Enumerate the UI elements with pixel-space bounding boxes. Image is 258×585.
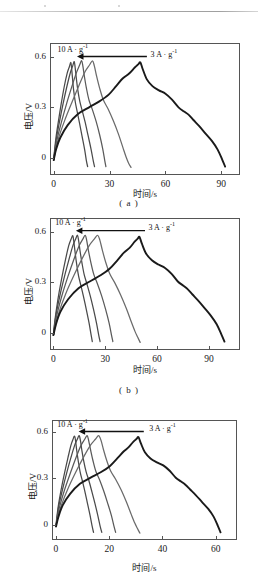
y-tick-mark (52, 478, 56, 479)
gcd-curve (54, 61, 106, 167)
panel-caption-b: ( b ) (0, 385, 258, 395)
gcd-curve (53, 235, 140, 342)
x-tick-label: 0 (41, 544, 71, 554)
scan-speck-right (118, 5, 120, 7)
high-rate-label: 10 A · g-1 (57, 418, 88, 429)
x-tick-label: 40 (147, 544, 177, 554)
scan-speck-left (44, 5, 46, 7)
x-tick-label: 0 (39, 179, 69, 189)
gcd-curve (53, 235, 100, 341)
y-axis-label: 电压/V (22, 278, 35, 305)
x-tick-mark (109, 536, 110, 540)
gcd-curve (54, 62, 95, 167)
y-tick-label: 0.3 (22, 101, 46, 111)
gcd-curve (56, 437, 221, 532)
chart-panel-a: 00.30.60306090时间/s电压/V10 A · g-13 A · g-… (0, 0, 258, 585)
x-tick-mark (209, 346, 210, 350)
y-tick-mark (50, 282, 54, 283)
curve-layer (0, 0, 258, 585)
x-tick-mark (54, 171, 55, 175)
gcd-curve (53, 236, 92, 342)
x-tick-label: 90 (206, 179, 236, 189)
gcd-curve (54, 62, 225, 166)
x-tick-label: 60 (150, 179, 180, 189)
curve-layer (0, 0, 258, 585)
gcd-curve (54, 61, 131, 168)
high-rate-label: 10 A · g-1 (55, 216, 86, 227)
x-tick-label: 20 (94, 544, 124, 554)
gcd-curve (56, 436, 116, 533)
low-rate-label: 3 A · g-1 (148, 221, 175, 232)
y-tick-mark (50, 333, 54, 334)
y-tick-label: 0.6 (22, 226, 46, 236)
y-tick-mark (52, 525, 56, 526)
chart-panel-b: 00.30.60306090时间/s电压/V10 A · g-13 A · g-… (0, 0, 258, 585)
x-tick-label: 60 (201, 544, 231, 554)
x-tick-label: 60 (142, 354, 172, 364)
x-axis-label: 时间/s (50, 363, 240, 376)
y-tick-label: 0 (22, 327, 46, 337)
gcd-curve (54, 62, 88, 166)
y-tick-mark (50, 158, 54, 159)
gcd-curve (53, 235, 112, 341)
y-axis-label: 电压/V (26, 473, 39, 500)
y-axis-label: 电压/V (22, 103, 35, 130)
y-tick-mark (50, 232, 54, 233)
y-tick-label: 0.6 (24, 426, 48, 436)
y-tick-label: 0.3 (22, 276, 46, 286)
x-tick-label: 0 (38, 354, 68, 364)
y-tick-label: 0 (24, 519, 48, 529)
x-tick-mark (221, 171, 222, 175)
x-tick-mark (53, 346, 54, 350)
x-tick-mark (105, 346, 106, 350)
plot-frame (52, 420, 237, 540)
plot-frame (50, 43, 240, 175)
low-rate-label: 3 A · g-1 (151, 48, 178, 59)
y-tick-label: 0 (22, 152, 46, 162)
x-tick-mark (216, 536, 217, 540)
x-axis-label: 时间/s (50, 187, 240, 200)
gcd-curve (56, 436, 94, 532)
plot-frame (50, 218, 240, 350)
rate-arrow-head (76, 228, 83, 234)
x-tick-mark (165, 171, 166, 175)
rate-arrow-head (79, 428, 86, 434)
chart-panel-c: 00.30.60204060时间/s电压/V10 A · g-13 A · g-… (0, 0, 258, 585)
x-axis-label: 时间/s (52, 561, 237, 574)
gcd-curve (56, 436, 102, 533)
y-tick-label: 0.3 (24, 472, 48, 482)
curve-layer (0, 0, 258, 585)
x-tick-label: 90 (194, 354, 224, 364)
scan-artifact-line (0, 11, 258, 12)
y-tick-label: 0.6 (22, 51, 46, 61)
gcd-curve (53, 237, 224, 342)
panel-caption-a: ( a ) (0, 198, 258, 208)
rate-arrow-head (77, 53, 84, 59)
y-tick-mark (50, 57, 54, 58)
x-tick-label: 30 (90, 354, 120, 364)
y-tick-mark (52, 432, 56, 433)
low-rate-label: 3 A · g-1 (149, 422, 176, 433)
x-tick-mark (56, 536, 57, 540)
x-tick-mark (110, 171, 111, 175)
x-tick-mark (157, 346, 158, 350)
y-tick-mark (50, 107, 54, 108)
gcd-curve (56, 436, 140, 533)
x-tick-mark (162, 536, 163, 540)
high-rate-label: 10 A · g-1 (57, 43, 88, 54)
x-tick-label: 30 (95, 179, 125, 189)
